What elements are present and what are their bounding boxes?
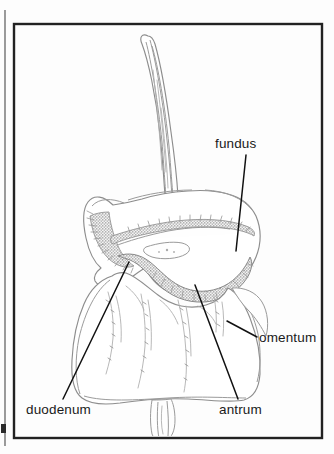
label-duodenum: duodenum bbox=[26, 402, 91, 417]
label-antrum: antrum bbox=[219, 402, 262, 417]
scan-artifact-mark bbox=[1, 424, 6, 433]
label-omentum: omentum bbox=[259, 330, 316, 345]
label-fundus: fundus bbox=[215, 136, 257, 151]
anatomy-figure: fundus omentum duodenum antrum bbox=[0, 0, 334, 454]
anatomy-illustration-svg: fundus omentum duodenum antrum bbox=[0, 0, 334, 454]
omentum-tail bbox=[151, 399, 176, 441]
